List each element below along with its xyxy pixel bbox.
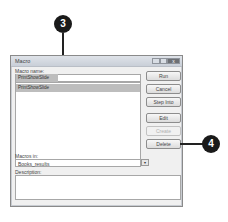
close-button[interactable]: x [167,58,180,64]
macros-in-value: Books_results [18,161,49,167]
dialog-title: Macro [15,58,30,64]
macro-name-input-value: PrintShowSlide [16,74,58,82]
dropdown-arrow-icon[interactable]: ▾ [141,159,149,166]
delete-button[interactable]: Delete [146,139,181,149]
macro-dialog: Macro x Macro name: PrintShowSlide Print… [10,55,183,207]
macros-in-dropdown[interactable]: Books_results [15,159,141,167]
create-button[interactable]: Create [146,126,181,136]
run-button[interactable]: Run [146,71,181,81]
description-box [15,175,181,200]
macro-list-item-label: PrintShowSlide [18,85,49,90]
help-button[interactable] [160,58,167,64]
callout-3: 3 [54,15,72,33]
title-bar: Macro x [11,56,182,67]
edit-button[interactable]: Edit [146,113,181,123]
callout-4-leader-line [180,143,204,145]
step-into-button[interactable]: Step Into [146,97,181,107]
macro-list-item[interactable]: PrintShowSlide [16,84,140,92]
callout-4: 4 [202,135,220,153]
minimize-button[interactable] [152,58,160,64]
macro-list[interactable]: PrintShowSlide [15,82,141,162]
macro-name-input[interactable]: PrintShowSlide [15,74,141,82]
cancel-button[interactable]: Cancel [146,84,181,94]
